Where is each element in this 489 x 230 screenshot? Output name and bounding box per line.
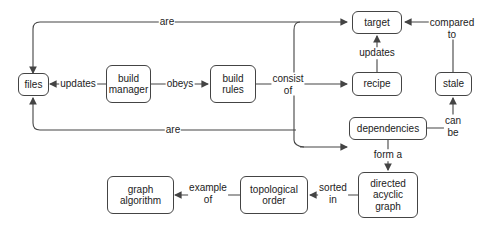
node-topological-order: topological order bbox=[240, 176, 308, 214]
node-build-rules: build rules bbox=[210, 65, 256, 103]
edge-label-obeys: obeys bbox=[166, 78, 195, 90]
edge-label-updates-target: updates bbox=[358, 47, 396, 59]
edge-label-form-a: form a bbox=[373, 149, 403, 161]
edge-label-updates-files: updates bbox=[59, 78, 97, 90]
edge-label-are-top: are bbox=[159, 16, 175, 28]
node-build-manager: build manager bbox=[106, 65, 151, 103]
edge-label-sorted-in: sorted in bbox=[318, 182, 348, 205]
edge-label-can-be: can be bbox=[444, 115, 462, 138]
edge-label-compared-to: compared to bbox=[429, 17, 475, 40]
edge-label-consist-of: consist of bbox=[271, 73, 304, 96]
node-dependencies: dependencies bbox=[349, 117, 427, 140]
edge-label-are-bottom: are bbox=[165, 124, 181, 136]
node-directed-acyclic-graph: directed acyclic graph bbox=[358, 172, 418, 218]
node-files: files bbox=[18, 73, 49, 96]
edge-label-example-of: example of bbox=[188, 182, 228, 205]
node-stale: stale bbox=[435, 72, 472, 96]
node-recipe: recipe bbox=[352, 72, 402, 96]
node-target: target bbox=[352, 11, 402, 34]
node-graph-algorithm: graph algorithm bbox=[107, 176, 174, 214]
